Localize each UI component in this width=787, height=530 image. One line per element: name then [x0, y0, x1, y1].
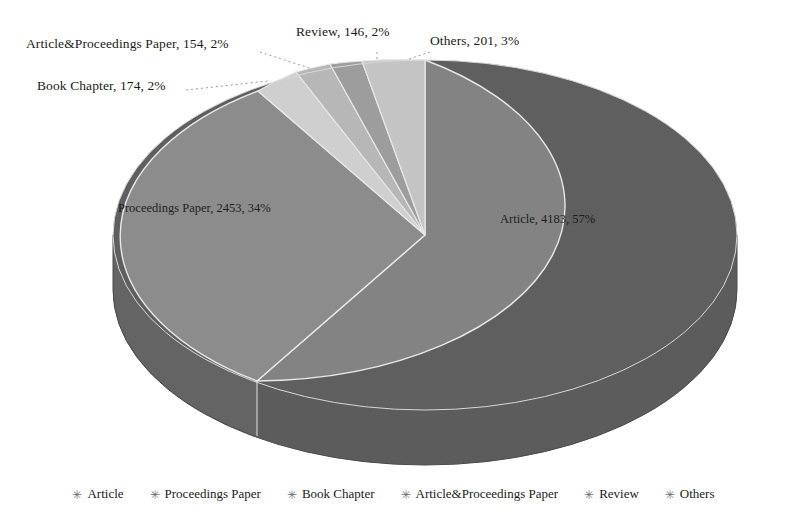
legend-item-article[interactable]: ✳ Article: [72, 486, 123, 502]
legend-label: Review: [599, 486, 639, 502]
legend-label: Book Chapter: [302, 486, 375, 502]
legend-marker-icon: ✳: [150, 489, 160, 501]
legend-item-article-proceedings-paper[interactable]: ✳ Article&Proceedings Paper: [401, 486, 559, 502]
legend-item-book-chapter[interactable]: ✳ Book Chapter: [287, 486, 375, 502]
callout-others: Others, 201, 3%: [430, 33, 519, 49]
legend-item-proceedings-paper[interactable]: ✳ Proceedings Paper: [150, 486, 261, 502]
legend-label: Article: [87, 486, 123, 502]
callout-article-proceedings-paper: Article&Proceedings Paper, 154, 2%: [26, 36, 229, 52]
legend-marker-icon: ✳: [584, 489, 594, 501]
leader-line-others: [406, 52, 430, 60]
legend-item-review[interactable]: ✳ Review: [584, 486, 639, 502]
pie-chart-figure: Article&Proceedings Paper, 154, 2% Book …: [0, 0, 787, 530]
legend-marker-icon: ✳: [401, 489, 411, 501]
legend-label: Article&Proceedings Paper: [416, 486, 559, 502]
inner-label-article: Article, 4183, 57%: [500, 212, 595, 227]
legend-item-others[interactable]: ✳ Others: [665, 486, 715, 502]
legend-marker-icon: ✳: [665, 489, 675, 501]
legend-label: Others: [680, 486, 715, 502]
inner-label-proceedings-paper: Proceedings Paper, 2453, 34%: [118, 201, 271, 216]
chart-legend: ✳ Article ✳ Proceedings Paper ✳ Book Cha…: [0, 486, 787, 502]
callout-review: Review, 146, 2%: [296, 24, 390, 40]
legend-marker-icon: ✳: [72, 489, 82, 501]
callout-book-chapter: Book Chapter, 174, 2%: [37, 78, 166, 94]
legend-label: Proceedings Paper: [165, 486, 261, 502]
legend-marker-icon: ✳: [287, 489, 297, 501]
leader-line-article-proceedings-paper: [260, 52, 312, 69]
